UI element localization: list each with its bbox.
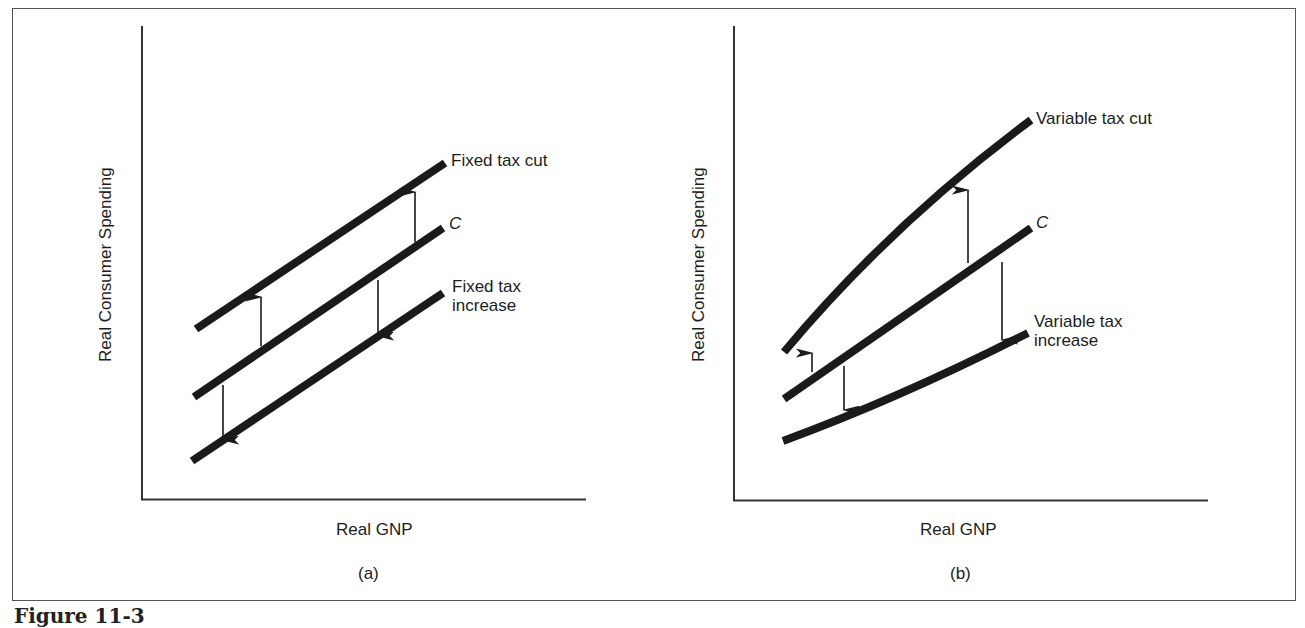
panel-b-curves <box>783 120 1031 441</box>
fixed-tax-increase-label-line2: increase <box>452 296 516 316</box>
fixed-tax-cut-label: Fixed tax cut <box>451 151 547 171</box>
panel-a-x-axis-label: Real GNP <box>336 520 413 540</box>
variable-tax-increase-label-line1: Variable tax <box>1034 312 1123 332</box>
panel-b-label: (b) <box>950 564 971 584</box>
panel-b-x-axis-label: Real GNP <box>920 520 997 540</box>
variable-tax-increase-line <box>783 333 1028 441</box>
panel-a-axes <box>141 26 586 500</box>
fixed-tax-increase-label-line1: Fixed tax <box>452 277 521 297</box>
panel-b-y-axis-label: Real Consumer Spending <box>689 167 709 362</box>
c-curve-label-b: C <box>1036 213 1048 233</box>
panel-a-label: (a) <box>358 564 379 584</box>
figure-caption: Figure 11-3 <box>14 604 145 628</box>
c-curve-label-a: C <box>449 214 461 234</box>
panel-a-curves <box>192 163 445 461</box>
panel-a-y-axis-label: Real Consumer Spending <box>96 167 116 362</box>
variable-tax-cut-label: Variable tax cut <box>1036 109 1152 129</box>
fixed-tax-cut-line <box>196 163 445 329</box>
variable-tax-increase-label-line2: increase <box>1034 331 1098 351</box>
